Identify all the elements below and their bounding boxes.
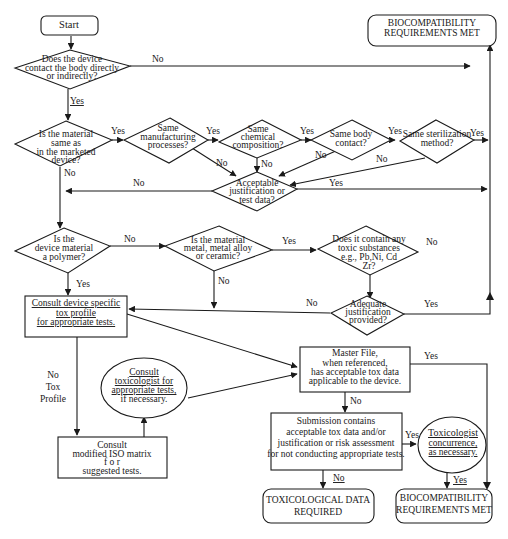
label-steril-yes: Yes xyxy=(470,128,484,138)
label-material-no: No xyxy=(64,168,76,178)
edge-body-no xyxy=(279,150,338,176)
flowchart-canvas: Start BIOCOMPATIBILITY REQUIREMENTS MET … xyxy=(0,0,508,539)
process-master-file[interactable]: Master File, when referenced, has accept… xyxy=(300,347,410,392)
submission-line-2: acceptable tox data and/or xyxy=(286,427,386,437)
process-consult-toxicologist[interactable]: Consult toxicologist for appropriate tes… xyxy=(101,358,187,418)
process-consult-iso-matrix[interactable]: Consult modified ISO matrix f o r sugges… xyxy=(58,437,167,478)
label-metal-yes: Yes xyxy=(282,236,296,246)
label-mfg-no: No xyxy=(216,158,228,168)
biocompatibility-met-bottom[interactable]: BIOCOMPATIBILITY REQUIREMENTS MET xyxy=(396,489,492,523)
label-contact-no: No xyxy=(152,54,164,64)
submission-line-3: justification or risk assessment xyxy=(277,438,395,448)
label-material-yes: Yes xyxy=(111,126,125,136)
tox-required-line-1: TOXICOLOGICAL DATA xyxy=(266,495,370,505)
edge-adequate-yes xyxy=(404,298,490,314)
edge-toxicologist-master xyxy=(188,374,297,398)
submission-line-4: for not conducting appropriate tests. xyxy=(267,449,404,459)
label-body-no: No xyxy=(315,150,327,160)
biocompatibility-met-top[interactable]: BIOCOMPATIBILITY REQUIREMENTS MET xyxy=(368,15,496,46)
bio-top-line-1: BIOCOMPATIBILITY xyxy=(388,18,476,28)
label-acceptable-yes: Yes xyxy=(329,178,343,188)
master-line-4: applicable to the device. xyxy=(309,376,401,386)
body-line-2: contact? xyxy=(335,138,367,148)
label-contact-yes: Yes xyxy=(70,96,84,106)
bio-bottom-line-1: BIOCOMPATIBILITY xyxy=(400,493,488,503)
label-no-tox-profile-2: Tox xyxy=(46,382,61,392)
contact-line-3: or indirectly? xyxy=(47,71,98,81)
submission-line-1: Submission contains xyxy=(297,416,376,426)
decision-same-chemical[interactable]: Same chemical composition? xyxy=(219,120,301,158)
label-chem-no: No xyxy=(261,159,273,169)
label-no-tox-profile-1: No xyxy=(47,370,59,380)
concurrence-line-1: Toxicologist xyxy=(428,427,478,438)
process-submission[interactable]: Submission contains acceptable tox data … xyxy=(267,413,404,470)
polymer-line-3: a polymer? xyxy=(43,252,85,262)
toxic-line-4: Zr? xyxy=(362,261,375,271)
start-label: Start xyxy=(59,19,79,30)
profile-line-1: Consult device specific xyxy=(32,298,121,308)
adequate-line-3: provided? xyxy=(349,315,387,325)
edge-adequate-no xyxy=(129,309,330,313)
decision-adequate-justification[interactable]: Adequate justification provided? xyxy=(331,296,404,335)
edge-mfg-no xyxy=(192,148,236,176)
decision-same-sterilization[interactable]: Same sterilization method? xyxy=(400,120,474,163)
start-node[interactable]: Start xyxy=(41,16,98,35)
bio-bottom-line-2: REQUIREMENTS MET xyxy=(396,505,492,515)
tox-required-line-2: REQUIRED xyxy=(294,507,342,517)
label-metal-no: No xyxy=(218,276,230,286)
label-acceptable-no: No xyxy=(133,178,145,188)
label-polymer-yes: Yes xyxy=(76,279,90,289)
edge-labels: No Yes Yes Yes Yes Yes Yes No No No No Y… xyxy=(40,54,484,485)
process-consult-tox-profile[interactable]: Consult device specific tox profile for … xyxy=(25,296,127,337)
label-submission-no: No xyxy=(333,473,345,483)
material-line-4: device? xyxy=(51,155,80,165)
label-master-no: No xyxy=(350,396,362,406)
iso-line-4: suggested tests. xyxy=(82,466,141,476)
label-polymer-no: No xyxy=(124,234,136,244)
label-adequate-no: No xyxy=(306,298,318,308)
decision-acceptable-justification[interactable]: Acceptable justification or test data? xyxy=(212,172,297,211)
label-concurrence-yes: Yes xyxy=(453,475,467,485)
label-submission-yes: Yes xyxy=(405,430,419,440)
label-master-yes: Yes xyxy=(424,351,438,361)
chem-line-3: composition? xyxy=(232,140,283,150)
decision-same-manufacturing[interactable]: Same manufacturing processes? xyxy=(124,118,208,163)
label-body-yes: Yes xyxy=(388,126,402,136)
toxicologist-line-4: if necessary. xyxy=(121,394,168,404)
concurrence-line-3: as necessary. xyxy=(429,447,478,457)
process-toxicologist-concurrence[interactable]: Toxicologist concurrence, as necessary. xyxy=(418,417,486,473)
master-line-1: Master File, xyxy=(332,348,378,358)
bio-top-line-2: REQUIREMENTS MET xyxy=(384,28,480,38)
label-adequate-yes: Yes xyxy=(424,299,438,309)
label-toxic-no: No xyxy=(426,237,438,247)
decision-same-material[interactable]: Is the material same as in the marketed … xyxy=(15,121,112,166)
label-chem-yes: Yes xyxy=(300,126,314,136)
terminal-toxicological-data-required[interactable]: TOXICOLOGICAL DATA REQUIRED xyxy=(263,489,374,523)
decision-metal-ceramic[interactable]: Is the material metal, metal alloy or ce… xyxy=(165,226,272,271)
label-mfg-yes: Yes xyxy=(206,126,220,136)
steril-line-2: method? xyxy=(421,138,454,148)
decision-polymer[interactable]: Is the device material a polymer? xyxy=(15,228,110,273)
profile-line-3: for appropriate tests. xyxy=(37,317,115,327)
label-no-tox-profile-3: Profile xyxy=(40,394,66,404)
label-steril-no: No xyxy=(376,154,388,164)
metal-line-3: or ceramic? xyxy=(196,251,241,261)
mfg-line-3: processes? xyxy=(148,140,189,150)
decision-toxic-substances[interactable]: Does it contain any toxic substances e.g… xyxy=(318,226,418,275)
acceptable-line-3: test data? xyxy=(239,195,275,205)
decision-body-contact[interactable]: Does the device contact the body directl… xyxy=(15,50,130,89)
